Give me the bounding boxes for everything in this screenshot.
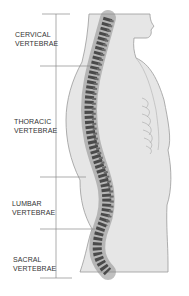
body-outline <box>66 14 171 272</box>
label-line: VERTEBRAE <box>12 208 55 217</box>
label-sacral-vertebrae: SACRAL VERTEBRAE <box>13 255 56 273</box>
label-line: THORACIC <box>14 117 57 126</box>
label-line: VERTEBRAE <box>13 264 56 273</box>
label-line: CERVICAL <box>15 30 58 39</box>
label-line: LUMBAR <box>12 199 55 208</box>
label-lumbar-vertebrae: LUMBAR VERTEBRAE <box>12 199 55 217</box>
label-line: SACRAL <box>13 255 56 264</box>
label-line: VERTEBRAE <box>14 126 57 135</box>
label-cervical-vertebrae: CERVICAL VERTEBRAE <box>15 30 58 48</box>
label-thoracic-vertebrae: THORACIC VERTEBRAE <box>14 117 57 135</box>
label-line: VERTEBRAE <box>15 39 58 48</box>
spine-diagram: CERVICAL VERTEBRAE THORACIC VERTEBRAE LU… <box>0 0 189 296</box>
